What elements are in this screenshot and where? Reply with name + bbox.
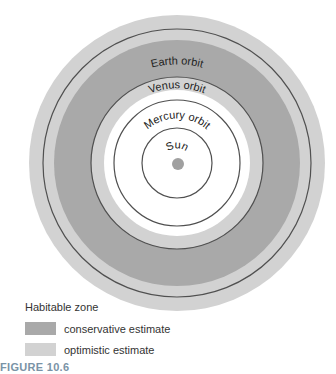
figure-caption: FIGURE 10.6 <box>0 361 69 373</box>
legend: Habitable zone conservative estimate opt… <box>25 301 170 360</box>
legend-label-optimistic: optimistic estimate <box>64 344 154 356</box>
conservative-swatch <box>25 322 56 335</box>
legend-item-optimistic: optimistic estimate <box>25 339 170 360</box>
legend-label-conservative: conservative estimate <box>64 323 170 335</box>
optimistic-swatch <box>25 343 56 356</box>
mars-orbit-label: Mars orbit <box>151 0 203 2</box>
legend-title: Habitable zone <box>25 301 170 313</box>
legend-item-conservative: conservative estimate <box>25 318 170 339</box>
sun-icon <box>172 158 184 170</box>
